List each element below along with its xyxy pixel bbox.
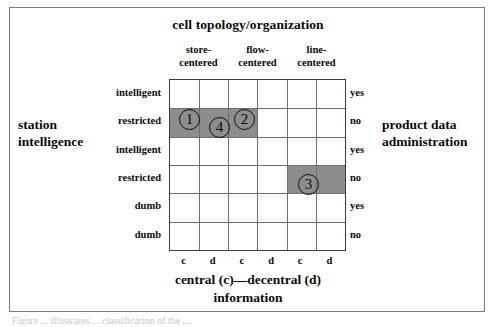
matrix-cell-r5-c0[interactable]: [170, 223, 199, 250]
matrix-row-5: [170, 222, 345, 250]
row-label-1: restricted: [50, 107, 165, 135]
circled-marker-4: 4: [209, 117, 230, 138]
circled-marker-2-label: 2: [241, 112, 249, 127]
cd-tick-0: c: [169, 255, 198, 266]
matrix-cell-r1-c4[interactable]: [287, 109, 316, 136]
yes-no-label-5: no: [350, 221, 380, 249]
row-label-column: intelligentrestrictedintelligentrestrict…: [50, 79, 165, 251]
matrix-cell-r2-c5[interactable]: [316, 138, 345, 165]
matrix-row-4: [170, 193, 345, 221]
page-caption-fragment: Figure ... illustrates ... classificatio…: [12, 315, 342, 325]
matrix-cell-r2-c2[interactable]: [228, 138, 257, 165]
matrix-cell-r1-c5[interactable]: [316, 109, 345, 136]
matrix-cell-r0-c0[interactable]: [170, 80, 199, 108]
row-label-4: dumb: [50, 192, 165, 220]
cd-tick-2: c: [227, 255, 256, 266]
yes-no-label-column: yesnoyesnoyesno: [350, 79, 380, 251]
matrix-cell-r3-c3[interactable]: [257, 166, 286, 193]
matrix-cell-r5-c4[interactable]: [287, 223, 316, 250]
row-label-2: intelligent: [50, 136, 165, 164]
matrix-row-2: [170, 137, 345, 165]
central-decentral-tick-row: cdcdcd: [169, 255, 346, 266]
column-group-1-line-0: flow-: [228, 44, 287, 57]
matrix-cell-r0-c3[interactable]: [257, 80, 286, 108]
matrix-cell-r3-c2[interactable]: [228, 166, 257, 193]
column-group-0-line-1: centered: [169, 57, 228, 70]
cd-tick-1: d: [198, 255, 227, 266]
circled-marker-1: 1: [179, 109, 200, 130]
matrix-cell-r2-c1[interactable]: [199, 138, 228, 165]
cd-tick-4: c: [286, 255, 315, 266]
yes-no-label-3: no: [350, 164, 380, 192]
column-group-0: store-centered: [169, 44, 228, 69]
yes-no-label-2: yes: [350, 136, 380, 164]
matrix-cell-r4-c0[interactable]: [170, 194, 199, 221]
row-label-5: dumb: [50, 221, 165, 249]
cd-tick-5: d: [315, 255, 344, 266]
matrix-cell-r5-c3[interactable]: [257, 223, 286, 250]
matrix-cell-r4-c5[interactable]: [316, 194, 345, 221]
column-group-2-line-0: line-: [287, 44, 346, 57]
matrix-grid: [169, 79, 346, 251]
matrix-cell-r3-c0[interactable]: [170, 166, 199, 193]
row-label-0: intelligent: [50, 79, 165, 107]
bottom-caption-line-1: information: [10, 289, 486, 307]
matrix-cell-r5-c5[interactable]: [316, 223, 345, 250]
matrix-row-0: [170, 80, 345, 108]
matrix-cell-r4-c1[interactable]: [199, 194, 228, 221]
figure-top-title: cell topology/organization: [10, 17, 486, 33]
circled-marker-1-label: 1: [186, 112, 194, 127]
matrix-cell-r0-c2[interactable]: [228, 80, 257, 108]
right-axis-caption: product dataadministration: [382, 116, 492, 150]
column-group-2-line-1: centered: [287, 57, 346, 70]
matrix-cell-r5-c1[interactable]: [199, 223, 228, 250]
matrix-cell-r2-c3[interactable]: [257, 138, 286, 165]
circled-marker-2: 2: [234, 109, 255, 130]
yes-no-label-0: yes: [350, 79, 380, 107]
figure-frame: cell topology/organization store-centere…: [9, 7, 485, 312]
matrix-cell-r5-c2[interactable]: [228, 223, 257, 250]
matrix-cell-r4-c4[interactable]: [287, 194, 316, 221]
right-caption-line-1: administration: [382, 133, 492, 150]
matrix-row-3: [170, 165, 345, 193]
column-group-2: line-centered: [287, 44, 346, 69]
circled-marker-3: 3: [298, 174, 319, 195]
matrix-cell-r1-c3[interactable]: [257, 109, 286, 136]
yes-no-label-4: yes: [350, 192, 380, 220]
circled-marker-4-label: 4: [216, 120, 224, 135]
yes-no-label-1: no: [350, 107, 380, 135]
matrix-cell-r4-c3[interactable]: [257, 194, 286, 221]
row-label-3: restricted: [50, 164, 165, 192]
matrix-cell-r3-c1[interactable]: [199, 166, 228, 193]
matrix-cell-r2-c4[interactable]: [287, 138, 316, 165]
circled-marker-3-label: 3: [305, 177, 313, 192]
bottom-axis-caption: central (c)—decentral (d)information: [10, 271, 486, 307]
bottom-caption-line-0: central (c)—decentral (d): [10, 271, 486, 289]
matrix-cell-r3-c5[interactable]: [316, 166, 345, 193]
cd-tick-3: d: [256, 255, 285, 266]
column-group-0-line-0: store-: [169, 44, 228, 57]
column-group-header-row: store-centeredflow-centeredline-centered: [169, 44, 346, 69]
column-group-1: flow-centered: [228, 44, 287, 69]
matrix-cell-r4-c2[interactable]: [228, 194, 257, 221]
matrix-cell-r0-c1[interactable]: [199, 80, 228, 108]
matrix-cell-r2-c0[interactable]: [170, 138, 199, 165]
right-caption-line-0: product data: [382, 116, 492, 133]
column-group-1-line-1: centered: [228, 57, 287, 70]
matrix-cell-r0-c4[interactable]: [287, 80, 316, 108]
matrix-cell-r0-c5[interactable]: [316, 80, 345, 108]
